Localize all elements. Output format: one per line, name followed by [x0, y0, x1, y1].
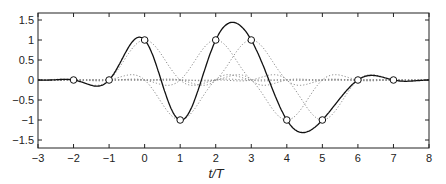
pulse-curve — [38, 40, 428, 85]
x-tick-label: 1 — [177, 152, 183, 164]
sample-marker — [284, 117, 291, 124]
sample-marker — [355, 77, 362, 84]
pulse-curve — [38, 75, 428, 120]
pulse-curve — [38, 75, 428, 120]
x-tick-label: 0 — [142, 152, 148, 164]
sample-marker — [212, 37, 219, 44]
sample-marker — [141, 37, 148, 44]
y-tick-label: 0 — [28, 74, 34, 86]
y-tick-label: 1 — [28, 34, 34, 46]
x-axis-ticks: −3−2−1012345678 — [32, 13, 432, 164]
pulse-sum-chart: −3−2−1012345678 1.510.50−0.5−1−1.5 t/T — [0, 0, 446, 184]
y-tick-label: 0.5 — [19, 54, 34, 66]
x-tick-label: 6 — [355, 152, 361, 164]
sample-marker — [106, 77, 113, 84]
pulse-curve — [38, 40, 428, 85]
x-tick-label: 3 — [248, 152, 254, 164]
x-axis-label: t/T — [208, 166, 224, 181]
y-tick-label: 1.5 — [19, 14, 34, 26]
x-tick-label: 7 — [390, 152, 396, 164]
sum-curve — [38, 22, 429, 132]
sample-marker — [319, 117, 326, 124]
individual-pulse-curves — [38, 40, 428, 120]
y-tick-label: −1.5 — [12, 134, 34, 146]
sample-marker — [177, 117, 184, 124]
y-tick-label: −0.5 — [12, 94, 34, 106]
sample-marker — [70, 77, 77, 84]
y-tick-label: −1 — [21, 114, 34, 126]
x-tick-label: −2 — [67, 152, 80, 164]
x-tick-label: 8 — [426, 152, 432, 164]
pulse-curve — [38, 75, 428, 120]
x-tick-label: 2 — [213, 152, 219, 164]
x-tick-label: −3 — [32, 152, 45, 164]
x-tick-label: −1 — [103, 152, 116, 164]
x-tick-label: 4 — [284, 152, 290, 164]
x-tick-label: 5 — [319, 152, 325, 164]
sample-marker — [248, 37, 255, 44]
pulse-curve — [38, 40, 428, 85]
sample-marker — [390, 77, 397, 84]
